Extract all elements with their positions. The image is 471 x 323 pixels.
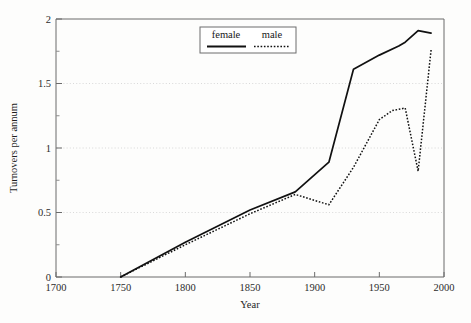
x-axis-title: Year [240, 299, 260, 310]
y-tick-label: 0 [46, 272, 51, 283]
x-tick-label: 1750 [110, 282, 131, 293]
y-tick-label: 2 [46, 14, 51, 25]
x-tick-label: 1850 [240, 282, 261, 293]
x-tick-label: 1900 [304, 282, 325, 293]
legend-label-female: female [212, 29, 241, 40]
line-chart: 1700175018001850190019502000 00.511.52 Y… [0, 0, 471, 323]
y-tick-label: 1.5 [38, 78, 51, 89]
y-tick-label: 0.5 [38, 207, 51, 218]
y-tick-label: 1 [46, 143, 51, 154]
x-tick-label: 1950 [369, 282, 390, 293]
x-tick-label: 1700 [46, 282, 67, 293]
y-axis-title: Turnovers per annum [8, 103, 19, 193]
x-tick-label: 1800 [175, 282, 196, 293]
legend-label-male: male [262, 29, 283, 40]
legend: female male [200, 27, 296, 53]
x-tick-label: 2000 [434, 282, 455, 293]
chart-page: 1700175018001850190019502000 00.511.52 Y… [0, 0, 471, 323]
